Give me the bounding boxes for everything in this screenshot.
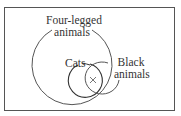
label-four-legged: Four-legged animals: [46, 14, 98, 38]
intersection-x-mark: [90, 77, 96, 83]
label-cats: Cats: [65, 57, 85, 69]
label-four-legged-line2: animals: [46, 26, 98, 38]
label-black-animals: Black animals: [114, 56, 148, 80]
label-black-line2: animals: [114, 68, 148, 80]
label-black-line1: Black: [114, 56, 148, 68]
label-four-legged-line1: Four-legged: [46, 14, 98, 26]
